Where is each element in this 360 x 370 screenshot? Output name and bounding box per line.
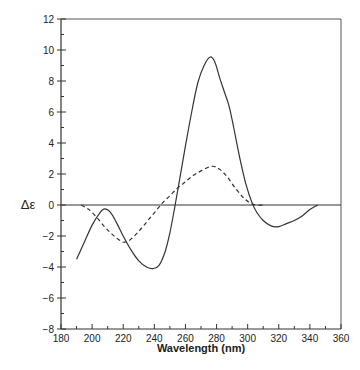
- y-tick-label: 4: [48, 138, 54, 149]
- y-tick-label: 10: [43, 45, 55, 56]
- y-tick-label: −8: [43, 324, 55, 335]
- plot-area: [77, 57, 318, 269]
- x-tick-label: 320: [270, 333, 287, 344]
- y-tick-label: 6: [48, 107, 54, 118]
- y-tick-label: −2: [43, 231, 55, 242]
- y-tick-label: −4: [43, 262, 55, 273]
- cd-spectrum-chart: 180200220240260280300320340360−8−6−4−202…: [0, 0, 360, 370]
- x-tick-label: 180: [53, 333, 70, 344]
- y-tick-label: −6: [43, 293, 55, 304]
- x-tick-label: 220: [115, 333, 132, 344]
- x-tick-label: 340: [302, 333, 319, 344]
- y-tick-label: 2: [48, 169, 54, 180]
- x-tick-label: 200: [84, 333, 101, 344]
- x-tick-label: 360: [333, 333, 350, 344]
- y-axis-label: Δε: [21, 197, 36, 212]
- y-tick-label: 12: [43, 14, 55, 25]
- ticks: 180200220240260280300320340360−8−6−4−202…: [43, 14, 350, 345]
- axes: [61, 19, 341, 329]
- series-dashed: [81, 166, 263, 242]
- series-solid: [77, 57, 318, 269]
- y-tick-label: 8: [48, 76, 54, 87]
- x-axis-label: Wavelength (nm): [157, 342, 246, 354]
- y-tick-label: 0: [48, 200, 54, 211]
